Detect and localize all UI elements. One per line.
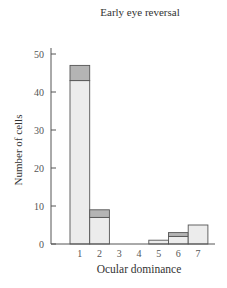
x-tick-label: 5	[156, 248, 161, 259]
y-tick-label: 30	[34, 125, 44, 136]
bar-6-light	[169, 236, 189, 244]
bar-2-dark	[90, 210, 110, 218]
x-tick-label: 7	[196, 248, 201, 259]
y-tick-label: 0	[39, 239, 44, 250]
y-tick-label: 20	[34, 163, 44, 174]
x-tick-label: 3	[117, 248, 122, 259]
y-axis-label: Number of cells	[12, 115, 24, 186]
bar-5-light	[149, 240, 169, 244]
x-tick-label: 1	[77, 248, 82, 259]
y-tick-label: 50	[34, 49, 44, 60]
x-axis-label: Ocular dominance	[97, 263, 182, 275]
x-tick-label: 2	[97, 248, 102, 259]
x-tick-label: 4	[136, 248, 141, 259]
bar-7-light	[188, 225, 208, 244]
bar-6-dark	[169, 233, 189, 237]
bar-1-light	[70, 81, 90, 244]
chart-title: Early eye reversal	[100, 6, 179, 18]
y-tick-label: 40	[34, 87, 44, 98]
histogram-chart: Early eye reversal 01020304050 1234567 O…	[0, 0, 227, 288]
x-ticks: 1234567	[77, 248, 200, 259]
x-tick-label: 6	[176, 248, 181, 259]
bar-2-light	[90, 217, 110, 244]
y-tick-label: 10	[34, 201, 44, 212]
bar-1-dark	[70, 65, 90, 80]
y-ticks: 01020304050	[34, 49, 56, 250]
bars	[70, 65, 208, 244]
